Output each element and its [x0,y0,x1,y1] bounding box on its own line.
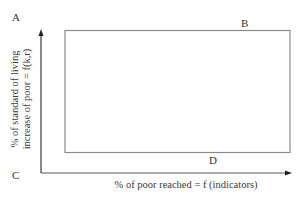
corner-label-b: B [241,18,248,29]
region-box [65,31,290,153]
y-axis-label-line2: increase of poor = f(k,r) [21,29,33,169]
corner-label-c: C [12,170,19,181]
corner-label-d: D [209,155,217,166]
x-axis-label: % of poor reached = f (indicators) [86,179,286,190]
y-axis-arrow-icon [39,29,44,36]
diagram-graphic [0,0,304,197]
y-axis-label-line1: % of standard of living [9,29,21,169]
diagram-canvas: A B C D % of standard of living increase… [0,0,304,197]
x-axis-arrow-icon [285,171,292,176]
corner-label-a: A [12,12,20,23]
